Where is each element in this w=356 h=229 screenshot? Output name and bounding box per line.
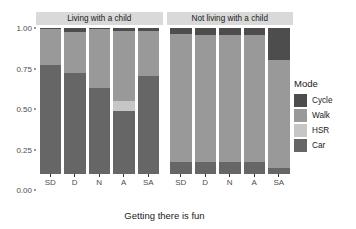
legend-label: Cycle <box>312 96 332 105</box>
x-axis: SDDNASA <box>36 174 163 190</box>
stacked-bar[interactable] <box>113 28 135 174</box>
x-axis-title: Getting there is fun <box>36 210 293 221</box>
stacked-bar[interactable] <box>195 28 217 174</box>
x-tick-mark <box>180 174 181 177</box>
x-tick-mark <box>99 174 100 177</box>
legend-item[interactable]: HSR <box>294 123 352 138</box>
stacked-bar[interactable] <box>89 28 111 174</box>
x-tick-mark <box>123 174 124 177</box>
bar-segment[interactable] <box>40 29 62 64</box>
bar-segment[interactable] <box>89 88 111 174</box>
legend-swatch <box>294 109 307 122</box>
bar-segment[interactable] <box>219 35 241 162</box>
legend: Mode CycleWalkHSRCar <box>294 78 352 153</box>
x-tick-label: SA <box>143 178 154 187</box>
bar-segment[interactable] <box>113 31 135 101</box>
plot-area <box>36 28 163 174</box>
stacked-bar[interactable] <box>40 28 62 174</box>
bar-segment[interactable] <box>40 65 62 175</box>
bar-segment[interactable] <box>113 101 135 111</box>
facet-panel: Not living with a childSDDNASA <box>167 12 294 190</box>
bar-segment[interactable] <box>195 35 217 162</box>
x-axis: SDDNASA <box>167 174 294 190</box>
x-tick-label: SD <box>175 178 186 187</box>
bar-segment[interactable] <box>195 162 217 174</box>
x-tick: SA <box>138 174 160 187</box>
bar-segment[interactable] <box>268 28 290 60</box>
facet-strip-label: Living with a child <box>36 12 163 25</box>
x-tick-mark <box>74 174 75 177</box>
legend-swatch <box>294 124 307 137</box>
x-tick: SD <box>40 174 62 187</box>
x-tick: N <box>89 174 111 187</box>
bar-segment[interactable] <box>244 28 266 35</box>
y-tick-label: 0.00 <box>16 186 32 195</box>
stacked-bar[interactable] <box>268 28 290 174</box>
x-tick-mark <box>278 174 279 177</box>
legend-item[interactable]: Cycle <box>294 93 352 108</box>
legend-items: CycleWalkHSRCar <box>294 93 352 153</box>
y-tick-label: 0.25 <box>16 145 32 154</box>
x-tick-label: SD <box>45 178 56 187</box>
stacked-bar[interactable] <box>64 28 86 174</box>
legend-item[interactable]: Car <box>294 138 352 153</box>
bar-group <box>167 28 294 174</box>
legend-title: Mode <box>294 78 352 89</box>
x-tick-label: A <box>252 178 257 187</box>
bar-group <box>36 28 163 174</box>
plot-area <box>167 28 294 174</box>
x-tick-label: D <box>202 178 208 187</box>
y-axis-tick-labels: 0.000.250.500.751.00 <box>10 28 36 190</box>
stacked-bar[interactable] <box>219 28 241 174</box>
y-axis-title: Proportion <box>0 0 13 29</box>
y-tick-label: 0.50 <box>16 105 32 114</box>
x-tick: A <box>113 174 135 187</box>
bar-segment[interactable] <box>138 31 160 76</box>
legend-item[interactable]: Walk <box>294 108 352 123</box>
bar-segment[interactable] <box>113 111 135 174</box>
bar-segment[interactable] <box>195 28 217 35</box>
x-tick: D <box>195 174 217 187</box>
x-tick-mark <box>254 174 255 177</box>
legend-swatch <box>294 139 307 152</box>
legend-label: Car <box>312 141 325 150</box>
x-tick-label: N <box>227 178 233 187</box>
x-tick-label: D <box>72 178 78 187</box>
x-tick: A <box>244 174 266 187</box>
x-tick-mark <box>205 174 206 177</box>
bar-segment[interactable] <box>170 162 192 174</box>
bar-segment[interactable] <box>244 162 266 174</box>
x-tick-label: A <box>121 178 126 187</box>
bar-segment[interactable] <box>219 162 241 174</box>
x-tick-label: N <box>96 178 102 187</box>
x-tick-mark <box>229 174 230 177</box>
stacked-bar[interactable] <box>170 28 192 174</box>
x-tick: SA <box>268 174 290 187</box>
chart-figure: Proportion 0.000.250.500.751.00 Living w… <box>0 0 356 229</box>
facet-strip-label: Not living with a child <box>167 12 294 25</box>
y-tick-label: 1.00 <box>16 24 32 33</box>
bar-segment[interactable] <box>89 29 111 87</box>
x-tick-label: SA <box>273 178 284 187</box>
x-tick-mark <box>50 174 51 177</box>
legend-label: HSR <box>312 126 329 135</box>
bar-segment[interactable] <box>268 60 290 168</box>
bar-segment[interactable] <box>170 34 192 162</box>
bar-segment[interactable] <box>244 35 266 162</box>
y-tick-label: 0.75 <box>16 64 32 73</box>
bar-segment[interactable] <box>64 32 86 73</box>
x-tick: D <box>64 174 86 187</box>
x-tick-mark <box>148 174 149 177</box>
x-tick: SD <box>170 174 192 187</box>
bar-segment[interactable] <box>138 76 160 174</box>
legend-swatch <box>294 94 307 107</box>
bar-segment[interactable] <box>219 28 241 35</box>
facet-panels: Living with a childSDDNASANot living wit… <box>36 12 293 190</box>
stacked-bar[interactable] <box>138 28 160 174</box>
bar-segment[interactable] <box>64 73 86 174</box>
facet-panel: Living with a childSDDNASA <box>36 12 163 190</box>
stacked-bar[interactable] <box>244 28 266 174</box>
legend-label: Walk <box>312 111 330 120</box>
x-tick: N <box>219 174 241 187</box>
